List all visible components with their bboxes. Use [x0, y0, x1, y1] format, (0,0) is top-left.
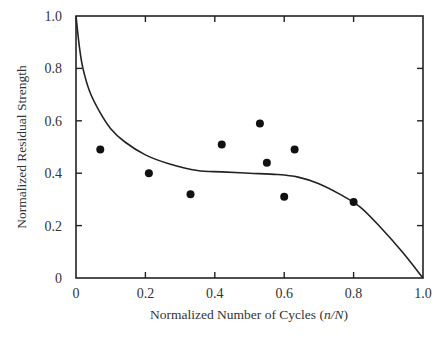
- data-point: [145, 169, 153, 177]
- plot-border: [76, 16, 423, 278]
- y-tick-labels: 00.20.40.60.81.0: [45, 9, 63, 286]
- x-tick-label: 0.2: [137, 286, 155, 301]
- plot-frame: [76, 16, 423, 278]
- y-tick-label: 0.4: [45, 166, 63, 181]
- x-tick-label: 0.8: [345, 286, 363, 301]
- data-point: [187, 190, 195, 198]
- data-point: [96, 146, 104, 154]
- data-point: [218, 140, 226, 148]
- x-tick-label: 0.4: [206, 286, 224, 301]
- data-point: [280, 193, 288, 201]
- data-point: [350, 198, 358, 206]
- x-axis-title: Normalized Number of Cycles (n/N): [150, 307, 348, 322]
- x-tick-label: 1.0: [414, 286, 432, 301]
- y-axis-title: Normalized Residual Strength: [14, 65, 29, 229]
- y-tick-label: 0.8: [45, 61, 63, 76]
- y-tick-label: 0: [55, 271, 62, 286]
- data-point: [263, 159, 271, 167]
- y-tick-label: 0.6: [45, 114, 63, 129]
- chart: 00.20.40.60.81.0 00.20.40.60.81.0 Normal…: [0, 0, 447, 338]
- y-tick-label: 0.2: [45, 219, 63, 234]
- data-points: [96, 119, 357, 206]
- x-tick-labels: 00.20.40.60.81.0: [73, 286, 432, 301]
- model-curve: [76, 16, 423, 278]
- data-point: [256, 119, 264, 127]
- axis-ticks: [76, 16, 423, 278]
- y-tick-label: 1.0: [45, 9, 63, 24]
- x-tick-label: 0: [73, 286, 80, 301]
- data-point: [291, 146, 299, 154]
- x-tick-label: 0.6: [275, 286, 293, 301]
